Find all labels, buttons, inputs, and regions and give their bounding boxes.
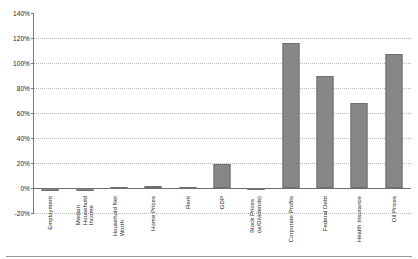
- bar-slot: [342, 13, 376, 213]
- x-axis-category-text: GDP: [219, 196, 226, 209]
- bar[interactable]: [385, 54, 402, 188]
- bar-slot: [102, 13, 136, 213]
- x-axis-category-text: Health Insurance: [356, 196, 363, 242]
- bar-slot: [308, 13, 342, 213]
- bar[interactable]: [76, 188, 93, 191]
- x-axis-category-label: Stock Prices(w/Dividends): [239, 196, 273, 258]
- x-axis-category-label: Oil Prices: [377, 196, 411, 258]
- x-axis-category-label: Rent: [170, 196, 204, 258]
- bar[interactable]: [317, 76, 334, 189]
- x-axis-category-text: Federal Debt: [322, 196, 329, 231]
- x-axis-category-label: Health Insurance: [342, 196, 376, 258]
- bottom-divider: [6, 256, 412, 257]
- bar[interactable]: [145, 186, 162, 189]
- bar[interactable]: [110, 187, 127, 189]
- x-axis-category-label: Household NetWorth: [102, 196, 136, 258]
- x-axis-category-label: Federal Debt: [308, 196, 342, 258]
- x-axis-category-label: Employment: [33, 196, 67, 258]
- bar-slot: [136, 13, 170, 213]
- y-tick-label: 40%: [17, 135, 30, 142]
- y-tick-label: 20%: [17, 160, 30, 167]
- bar-slot: [274, 13, 308, 213]
- x-axis-category-text: Employment: [47, 196, 54, 230]
- x-axis-category-label: GDP: [205, 196, 239, 258]
- y-tick-label: -20%: [14, 210, 30, 217]
- x-axis-category-text: Corporate Profits: [287, 196, 294, 242]
- bar[interactable]: [213, 164, 230, 188]
- bar-slot: [33, 13, 67, 213]
- y-tick-label: 120%: [13, 35, 30, 42]
- bar[interactable]: [282, 43, 299, 188]
- x-axis-category-label: Corporate Profits: [274, 196, 308, 258]
- x-axis-category-text: Rent: [184, 196, 191, 209]
- bars-layer: [33, 13, 411, 213]
- y-tick-label: 0%: [20, 185, 30, 192]
- bar[interactable]: [351, 103, 368, 188]
- bar[interactable]: [248, 188, 265, 190]
- x-axis-category-text: Stock Prices(w/Dividends): [250, 196, 263, 233]
- bar-slot: [377, 13, 411, 213]
- x-axis-labels: EmploymentMedianHouseholdIncomeHousehold…: [33, 196, 411, 259]
- x-axis-category-text: Household NetWorth: [112, 196, 125, 236]
- y-tick-label: 140%: [13, 10, 30, 17]
- bar-slot: [170, 13, 204, 213]
- x-axis-category-label: Home Prices: [136, 196, 170, 258]
- bar-slot: [67, 13, 101, 213]
- x-axis-category-text: Home Prices: [150, 196, 157, 231]
- bar[interactable]: [179, 187, 196, 189]
- x-axis-category-label: MedianHouseholdIncome: [67, 196, 101, 258]
- y-tick-label: 100%: [13, 60, 30, 67]
- y-tick-label: 60%: [17, 110, 30, 117]
- bar[interactable]: [42, 188, 59, 191]
- x-axis-category-text: MedianHouseholdIncome: [75, 196, 95, 225]
- x-axis-category-text: Oil Prices: [390, 196, 397, 222]
- y-tick-label: 80%: [17, 85, 30, 92]
- bar-slot: [239, 13, 273, 213]
- bar-slot: [205, 13, 239, 213]
- bar-chart: 140%120%100%80%60%40%20%0%-20% Employmen…: [0, 0, 418, 259]
